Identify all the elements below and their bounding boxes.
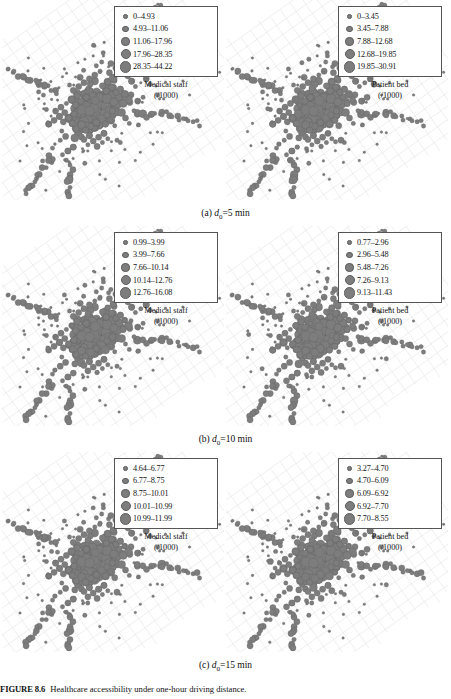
panel-row: 4.64–6.77 6.77–8.75 8.75–10.01 10.0 [0,452,451,652]
legend-unit: (/1000) [144,542,187,553]
legend-unit: (/1000) [372,316,409,327]
legend-item-label: 7.66–10.14 [133,263,168,272]
legend-symbol-icon [118,263,133,271]
legend-item: 12.68–19.85 [342,48,436,61]
legend-variable-name: Patient bed [372,80,409,89]
legend-item-label: 4.93–11.06 [133,24,168,33]
figure-caption-text: Healthcare accessibility under one-hour … [50,684,246,694]
legend-item: 7.88–12.68 [342,35,436,48]
legend-item-label: 3.45–7.88 [357,24,388,33]
legend-symbol-icon [342,501,357,511]
legend-item-label: 5.48–7.26 [357,263,388,272]
legend-item: 17.96–28.35 [118,48,212,61]
legend-item: 0.77–2.96 [342,236,436,249]
legend-symbol-icon [342,287,357,299]
subfigure-label: (c) [199,660,210,670]
legend-item-label: 17.96–28.35 [133,50,172,59]
legend-unit: (/1000) [144,316,187,327]
legend-item: 10.99–11.99 [118,512,212,525]
map-panel: 0–3.45 3.45–7.88 7.88–12.68 12.68–1 [226,0,448,200]
map-panel: 0–4.93 4.93–11.06 11.06–17.96 17.96 [2,0,224,200]
legend-item: 7.70–8.55 [342,512,436,525]
legend-item-label: 12.76–16.08 [133,288,172,297]
legend-item: 11.06–17.96 [118,35,212,48]
legend-symbol-icon [118,275,133,285]
legend-item-label: 6.77–8.75 [133,476,164,485]
legend-variable-name: Patient bed [372,306,409,315]
legend-symbol-icon [118,501,133,511]
legend-item-label: 19.85–30.91 [357,62,396,71]
map-legend: 0.77–2.96 2.96–5.48 5.48–7.26 7.26– [338,232,442,327]
legend-item-label: 7.88–12.68 [357,37,392,46]
legend-item: 3.45–7.88 [342,23,436,36]
legend-item-label: 2.96–5.48 [357,250,388,259]
legend-symbol-icon [342,240,357,245]
legend-item-label: 0–3.45 [357,12,379,21]
subfigure-value: =10 min [220,434,252,444]
legend-variable-name: Medical staff [144,306,187,315]
figure-container: 0–4.93 4.93–11.06 11.06–17.96 17.96 [0,0,451,699]
legend-unit: (/1000) [372,542,409,553]
legend-symbol-icon [342,37,357,45]
subfigure-value: =15 min [220,660,252,670]
legend-item: 28.35–44.22 [118,60,212,73]
panel-row: 0–4.93 4.93–11.06 11.06–17.96 17.96 [0,0,451,200]
legend-symbol-icon [118,14,133,19]
map-legend: 0–3.45 3.45–7.88 7.88–12.68 12.68–1 [338,6,442,101]
legend-symbol-icon [342,478,357,484]
legend-classes: 3.27–4.70 4.70–6.09 6.09–6.92 6.92– [338,458,442,529]
legend-item-label: 6.09–6.92 [357,489,388,498]
legend-symbol-icon [118,49,133,59]
legend-symbol-icon [342,14,357,19]
legend-item-label: 0.77–2.96 [357,238,388,247]
legend-variable-name: Patient bed [372,532,409,541]
figure-caption: FIGURE 8.6Healthcare accessibility under… [0,682,451,699]
map-legend: 4.64–6.77 6.77–8.75 8.75–10.01 10.0 [114,458,218,553]
legend-title: Patient bed (/1000) [372,531,409,553]
legend-symbol-icon [342,26,357,32]
map-panel: 0.77–2.96 2.96–5.48 5.48–7.26 7.26– [226,226,448,426]
legend-symbol-icon [118,37,133,45]
legend-item: 4.93–11.06 [118,23,212,36]
legend-symbol-icon [342,49,357,59]
legend-variable-name: Medical staff [144,80,187,89]
figure-row: 0–4.93 4.93–11.06 11.06–17.96 17.96 [0,0,451,226]
subfigure-caption: (a) d0=5 min [0,200,451,226]
legend-item: 0–3.45 [342,10,436,23]
legend-item: 9.13–11.43 [342,286,436,299]
subfigure-label: (b) [199,434,210,444]
legend-item: 2.96–5.48 [342,249,436,262]
legend-item: 6.77–8.75 [118,475,212,488]
legend-item-label: 4.64–6.77 [133,464,164,473]
legend-symbol-icon [118,240,133,245]
legend-variable-name: Medical staff [144,532,187,541]
legend-classes: 0.99–3.99 3.99–7.66 7.66–10.14 10.1 [114,232,218,303]
legend-item-label: 0.99–3.99 [133,238,164,247]
legend-classes: 0–3.45 3.45–7.88 7.88–12.68 12.68–1 [338,6,442,77]
legend-classes: 0.77–2.96 2.96–5.48 5.48–7.26 7.26– [338,232,442,303]
panel-row: 0.99–3.99 3.99–7.66 7.66–10.14 10.1 [0,226,451,426]
legend-title: Medical staff (/1000) [144,305,187,327]
legend-item-label: 28.35–44.22 [133,62,172,71]
map-legend: 0.99–3.99 3.99–7.66 7.66–10.14 10.1 [114,232,218,327]
legend-item-label: 10.01–10.99 [133,502,172,511]
map-legend: 0–4.93 4.93–11.06 11.06–17.96 17.96 [114,6,218,101]
legend-symbol-icon [118,513,133,525]
legend-title: Patient bed (/1000) [372,305,409,327]
legend-symbol-icon [342,513,357,525]
legend-symbol-icon [342,489,357,497]
legend-classes: 0–4.93 4.93–11.06 11.06–17.96 17.96 [114,6,218,77]
subfigure-value: =5 min [222,208,249,218]
subfigure-label: (a) [201,208,212,218]
legend-title: Patient bed (/1000) [372,79,409,101]
legend-item-label: 8.75–10.01 [133,489,168,498]
legend-item: 8.75–10.01 [118,487,212,500]
legend-symbol-icon [342,275,357,285]
legend-item-label: 9.13–11.43 [357,288,392,297]
legend-item: 4.64–6.77 [118,462,212,475]
legend-item-label: 7.70–8.55 [357,514,388,523]
legend-item: 3.99–7.66 [118,249,212,262]
map-legend: 3.27–4.70 4.70–6.09 6.09–6.92 6.92– [338,458,442,553]
figure-number: FIGURE 8.6 [0,684,45,694]
figure-row: 4.64–6.77 6.77–8.75 8.75–10.01 10.0 [0,452,451,678]
